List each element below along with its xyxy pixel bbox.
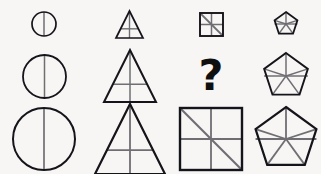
shape-matrix-grid: ?: [0, 0, 321, 174]
question-mark-marker: ?: [199, 54, 224, 97]
circle-icon: [27, 7, 61, 41]
triangle-icon: [111, 6, 148, 43]
matrix-cell-pentagon-small: [251, 0, 321, 48]
pentagon-icon: [249, 102, 321, 174]
matrix-cell-triangle-small: [88, 0, 171, 48]
matrix-cell-pentagon-large: [251, 104, 321, 174]
circle-icon: [8, 103, 80, 174]
pentagon-icon: [258, 48, 314, 104]
matrix-cell-square-large: [171, 104, 251, 174]
matrix-cell-circle-large: [0, 104, 88, 174]
matrix-cell-square-small: [171, 0, 251, 48]
circle-icon: [18, 50, 71, 103]
triangle-icon: [90, 99, 170, 174]
triangle-icon: [99, 45, 161, 107]
matrix-cell-circle-medium: [0, 48, 88, 104]
matrix-cell-missing-cell: ?: [171, 48, 251, 104]
matrix-cell-pentagon-medium: [251, 48, 321, 104]
matrix-puzzle-image: ?: [0, 0, 321, 174]
matrix-cell-triangle-large: [88, 104, 171, 174]
matrix-cell-triangle-medium: [88, 48, 171, 104]
square-icon: [175, 103, 247, 174]
square-icon: [195, 8, 228, 41]
pentagon-icon: [269, 7, 303, 41]
matrix-cell-circle-small: [0, 0, 88, 48]
